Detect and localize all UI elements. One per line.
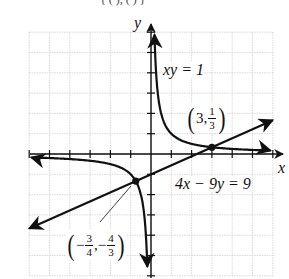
point1-x: 3, [196, 111, 207, 126]
point1-label: ( 3, 1 3 ) [186, 103, 227, 133]
point1-open-paren: ( [188, 103, 195, 133]
y-axis-label: y [134, 15, 141, 31]
point2-x-denominator: 4 [86, 246, 92, 258]
point1-close-paren: ) [218, 103, 225, 133]
cropped-heading-fragment: { ( ), ( ) } [100, 0, 146, 6]
point1-y-fraction: 1 3 [208, 106, 216, 131]
point2-label: ( − 3 4 , − 4 3 ) [66, 230, 126, 260]
graph-canvas: { ( ), ( ) } [0, 0, 289, 279]
intersection-point-2 [132, 177, 139, 184]
hyperbola-upper-branch [155, 35, 271, 151]
point2-y-sign: − [98, 238, 106, 253]
point1-y-numerator: 1 [208, 106, 216, 119]
x-axis-label: x [278, 160, 285, 176]
point2-open-paren: ( [68, 230, 75, 260]
point2-pointer [100, 186, 131, 222]
point2-y-numerator: 4 [107, 233, 115, 246]
point2-y-denominator: 3 [108, 246, 114, 258]
point1-y-denominator: 3 [209, 119, 215, 131]
point2-y-fraction: 4 3 [107, 233, 115, 258]
point2-x-sign: − [76, 238, 84, 253]
hyperbola-equation-label: xy = 1 [163, 62, 204, 78]
point2-close-paren: ) [117, 230, 124, 260]
intersection-point-1 [208, 144, 215, 151]
point2-x-numerator: 3 [85, 233, 93, 246]
line-equation-label: 4x − 9y = 9 [175, 176, 251, 192]
point2-x-fraction: 3 4 [85, 233, 93, 258]
